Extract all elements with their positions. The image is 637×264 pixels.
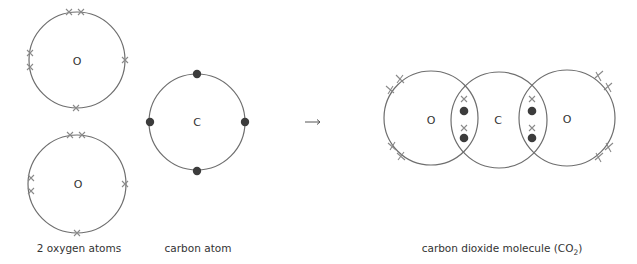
oxygen-symbol-right: O: [563, 113, 572, 126]
co2-caption-main: carbon dioxide molecule (CO: [422, 242, 574, 254]
dot-icon: [146, 118, 154, 126]
cross-icon: [396, 75, 404, 83]
shared-electrons-left: [460, 96, 469, 142]
co2-formation-diagram: O O 2 oxygen atoms C: [0, 0, 637, 264]
co2-caption: carbon dioxide molecule (CO2): [422, 242, 583, 257]
cross-icon: [604, 83, 612, 92]
oxygen-atom-top: O: [27, 9, 128, 111]
co2-molecule: O C O: [384, 70, 615, 168]
shared-electrons-right: [528, 96, 537, 142]
carbon-symbol-center: C: [494, 114, 502, 127]
carbon-atom: C: [146, 70, 249, 175]
oxygen-symbol: O: [73, 55, 82, 68]
right-arrow-icon: [305, 120, 320, 125]
dot-icon: [193, 70, 201, 78]
dot-icon: [528, 107, 537, 116]
cross-icon: [529, 125, 535, 131]
cross-icon: [122, 181, 128, 187]
oxygen-symbol: O: [74, 178, 83, 191]
carbon-caption: carbon atom: [165, 242, 232, 254]
co2-caption-end: ): [578, 242, 582, 254]
oxygen-caption: 2 oxygen atoms: [37, 242, 121, 254]
dot-icon: [241, 118, 249, 126]
cross-icon: [461, 96, 467, 102]
dot-icon: [460, 134, 469, 143]
cross-icon: [529, 96, 535, 102]
oxygen-atom-bottom: O: [28, 132, 128, 236]
oxygen-symbol-left: O: [427, 114, 436, 127]
dot-icon: [460, 107, 469, 116]
dot-icon: [193, 167, 201, 175]
cross-icon: [461, 125, 467, 131]
carbon-symbol: C: [193, 116, 201, 129]
dot-icon: [528, 134, 537, 143]
cross-icon: [605, 143, 613, 152]
